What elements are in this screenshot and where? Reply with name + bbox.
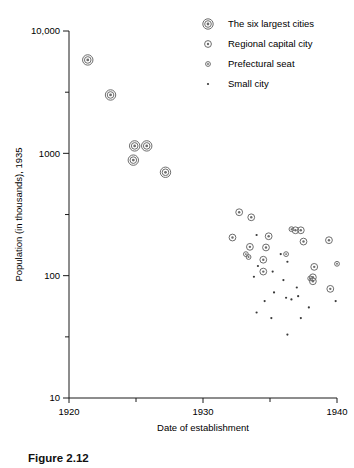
marker-core	[132, 159, 135, 162]
legend-item[interactable]: Prefectural seat	[206, 58, 295, 69]
data-point	[236, 209, 243, 216]
marker-dot	[273, 291, 275, 293]
data-point	[311, 263, 318, 270]
x-tick-label: 1920	[58, 406, 79, 417]
marker-core	[313, 266, 315, 268]
marker-dot	[300, 317, 302, 319]
marker-core	[265, 246, 267, 248]
data-point	[243, 252, 248, 257]
marker-dot	[308, 306, 310, 308]
marker-dot	[335, 300, 337, 302]
legend-item[interactable]: Regional capital city	[205, 38, 313, 49]
marker-core	[248, 256, 250, 258]
marker-dot	[282, 279, 284, 281]
marker-core	[302, 240, 304, 242]
legend-marker	[207, 83, 209, 85]
legend: The six largest citiesRegional capital c…	[203, 18, 315, 89]
marker-core	[309, 277, 311, 279]
figure-container: 10100100010,000192019301940Date of estab…	[0, 0, 354, 468]
marker-dot	[270, 317, 272, 319]
marker-dot	[286, 333, 288, 335]
y-tick-label: 10,000	[31, 25, 60, 36]
data-point	[270, 317, 272, 319]
data-point	[300, 238, 307, 245]
data-point	[284, 252, 289, 257]
data-point	[265, 233, 272, 240]
marker-dot	[272, 270, 274, 272]
data-point	[256, 311, 258, 313]
data-point	[83, 55, 93, 65]
data-point	[286, 261, 288, 263]
x-axis-title: Date of establishment	[157, 422, 249, 433]
data-point	[128, 155, 138, 165]
legend-marker	[206, 62, 211, 67]
marker-dot	[290, 298, 292, 300]
data-point	[229, 234, 236, 241]
data-point	[300, 317, 302, 319]
marker-core	[290, 228, 292, 230]
scatter-plot: 10100100010,000192019301940Date of estab…	[0, 0, 354, 468]
marker-core	[245, 253, 247, 255]
x-tick-label: 1930	[192, 406, 213, 417]
data-point	[326, 237, 333, 244]
data-point	[129, 141, 139, 151]
data-point	[286, 333, 288, 335]
marker-core	[164, 171, 167, 174]
marker-core	[262, 259, 264, 261]
data-point	[105, 90, 115, 100]
data-point	[335, 261, 340, 266]
marker-core	[238, 211, 240, 213]
data-point	[297, 295, 299, 297]
data-point	[246, 255, 251, 260]
series-1	[83, 55, 171, 178]
marker-core	[300, 229, 302, 231]
data-point	[264, 300, 266, 302]
legend-marker	[203, 19, 213, 29]
legend-label: Regional capital city	[228, 38, 313, 49]
data-point	[296, 286, 298, 288]
data-point	[160, 167, 170, 177]
marker-core	[207, 63, 209, 65]
marker-core	[145, 145, 148, 148]
marker-dot	[256, 234, 258, 236]
marker-core	[133, 145, 136, 148]
data-point	[263, 244, 270, 251]
marker-dot	[264, 300, 266, 302]
data-point	[260, 268, 267, 275]
marker-core	[336, 263, 338, 265]
legend-item[interactable]: Small city	[207, 78, 269, 89]
marker-core	[262, 270, 264, 272]
marker-dot	[280, 253, 282, 255]
series-4	[253, 234, 337, 336]
marker-dot	[257, 265, 259, 267]
legend-label: The six largest cities	[228, 18, 314, 29]
data-point	[335, 300, 337, 302]
marker-dot	[256, 311, 258, 313]
data-point	[289, 227, 294, 232]
x-tick-label: 1940	[326, 406, 347, 417]
legend-marker	[205, 41, 212, 48]
data-point	[260, 256, 267, 263]
data-point	[290, 298, 292, 300]
marker-core	[109, 94, 112, 97]
marker-core	[328, 239, 330, 241]
marker-core	[207, 43, 209, 45]
marker-dot	[296, 286, 298, 288]
marker-dot	[297, 295, 299, 297]
marker-core	[329, 288, 331, 290]
y-tick-label: 1000	[39, 148, 60, 159]
data-point	[273, 291, 275, 293]
y-tick-label: 10	[49, 392, 60, 403]
data-point	[253, 276, 255, 278]
legend-item[interactable]: The six largest cities	[203, 18, 315, 29]
marker-dot	[285, 297, 287, 299]
marker-core	[250, 216, 252, 218]
series-2	[229, 209, 334, 292]
marker-core	[231, 236, 233, 238]
data-point	[285, 297, 287, 299]
data-point	[248, 214, 255, 221]
figure-caption: Figure 2.12	[28, 452, 89, 464]
legend-label: Prefectural seat	[228, 58, 295, 69]
marker-core	[86, 59, 89, 62]
data-point	[247, 243, 254, 250]
